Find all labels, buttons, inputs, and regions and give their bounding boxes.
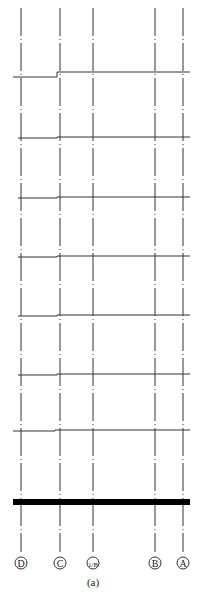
floor-line-3 bbox=[18, 197, 190, 198]
floor-line-4 bbox=[18, 256, 190, 257]
svg-text:C: C bbox=[57, 558, 64, 569]
frame-elevation-diagram: DC1/BBA bbox=[0, 0, 203, 605]
axis-bubble-1-B: 1/B bbox=[87, 557, 99, 569]
floor-line-6 bbox=[18, 374, 190, 375]
figure-caption: (a) bbox=[0, 576, 186, 588]
axis-labels: DC1/BBA bbox=[15, 557, 189, 569]
svg-text:B: B bbox=[152, 558, 159, 569]
floor-lines bbox=[13, 72, 190, 431]
axis-bubble-C: C bbox=[54, 557, 66, 569]
floor-line-7 bbox=[13, 430, 190, 431]
axis-bubble-B: B bbox=[149, 557, 161, 569]
svg-text:1/B: 1/B bbox=[88, 561, 98, 569]
foundation-beam bbox=[13, 499, 190, 505]
svg-text:A: A bbox=[179, 558, 187, 569]
svg-text:D: D bbox=[17, 558, 24, 569]
axis-lines bbox=[21, 8, 183, 552]
floor-line-2 bbox=[18, 137, 190, 138]
axis-bubble-A: A bbox=[177, 557, 189, 569]
foundation-beam-bar bbox=[13, 499, 190, 505]
axis-bubble-D: D bbox=[15, 557, 27, 569]
floor-line-1 bbox=[13, 72, 190, 77]
floor-line-5 bbox=[18, 315, 190, 316]
